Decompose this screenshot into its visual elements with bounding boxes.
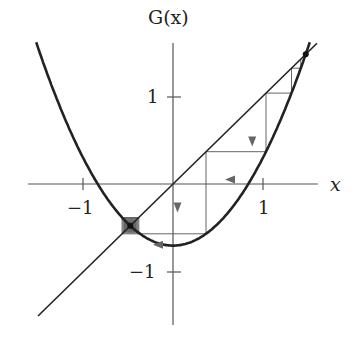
y-tick-label-pos1: 1 [147,86,158,107]
diagonal-line [38,43,317,316]
fixed-point-marker [127,223,133,229]
fixed-point-marker [303,51,309,57]
y-axis-label: G(x) [148,6,189,28]
x-tick-label-pos1: 1 [258,197,269,218]
arrow-icon [225,176,235,184]
arrow-icon [174,202,182,212]
cobweb-diagram: G(x) x −1 1 1 −1 [0,0,359,342]
x-tick-label-neg1: −1 [67,197,94,218]
y-tick-label-neg1: −1 [129,261,156,282]
x-axis-label: x [330,173,341,195]
arrow-icon [248,136,256,146]
